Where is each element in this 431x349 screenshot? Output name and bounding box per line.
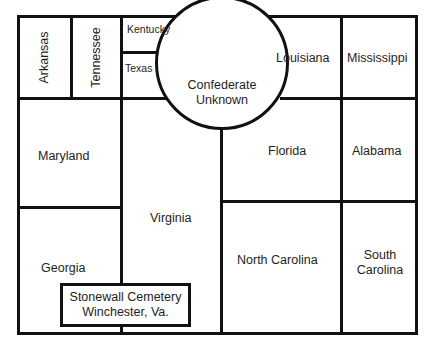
label-carolina: Carolina [345,263,415,278]
label-south-carolina: South Carolina [345,248,415,278]
divider-maryland-georgia [17,206,123,209]
divider-virginia-right [220,125,223,335]
divider-florida-bottom [220,200,418,203]
label-louisiana: Louisiana [276,51,330,66]
divider-top-row-left [17,97,167,100]
frame-bottom [17,332,418,335]
divider-top-row-right [280,97,418,100]
label-virginia: Virginia [150,211,191,226]
label-texas: Texas [125,61,152,76]
label-confederate-unknown: Confederate Unknown [172,78,272,108]
label-alabama: Alabama [352,144,401,159]
label-north-carolina: North Carolina [237,253,318,268]
cemetery-caption-box: Stonewall Cemetery Winchester, Va. [60,283,191,327]
label-south: South [345,248,415,263]
divider-arkansas-tennessee [70,15,73,100]
label-maryland: Maryland [38,149,89,164]
caption-line1: Stonewall Cemetery [70,290,182,305]
label-mississippi: Mississippi [347,51,407,66]
label-unknown: Unknown [172,93,272,108]
caption-line2: Winchester, Va. [82,305,169,320]
label-confederate: Confederate [172,78,272,93]
label-tennessee: Tennessee [89,23,104,93]
label-kentucky: Kentucky [127,22,170,37]
frame-right [415,15,418,335]
label-arkansas: Arkansas [37,28,52,88]
label-florida: Florida [268,144,306,159]
divider-louisiana-mississippi [340,15,343,335]
frame-left [17,15,20,335]
confederate-unknown-circle [155,0,289,130]
label-georgia: Georgia [41,261,85,276]
